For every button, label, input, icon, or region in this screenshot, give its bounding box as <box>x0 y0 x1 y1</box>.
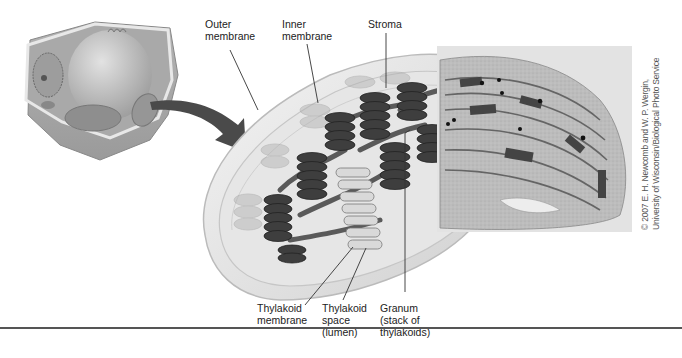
magnify-arrow <box>150 100 246 152</box>
label-thylakoid-membrane: Thylakoid membrane <box>257 302 307 326</box>
photo-credit: © 2007 E. H. Newcomb and W. P. Wergin, U… <box>640 58 662 230</box>
electron-micrograph <box>437 46 632 232</box>
label-outer-membrane: Outer membrane <box>205 18 255 42</box>
label-inner-membrane: Inner membrane <box>282 18 332 42</box>
figure: Outer membrane Inner membrane Stroma Thy… <box>0 0 682 358</box>
label-stroma: Stroma <box>368 18 402 30</box>
label-granum: Granum (stack of thylakoids) <box>380 302 430 338</box>
chloroplast-cutaway-illustration <box>204 54 470 300</box>
plant-cell-illustration <box>26 22 178 160</box>
label-thylakoid-space: Thylakoid space (lumen) <box>322 302 367 338</box>
leader-outer-membrane <box>230 50 258 110</box>
divider-rule <box>0 327 682 329</box>
